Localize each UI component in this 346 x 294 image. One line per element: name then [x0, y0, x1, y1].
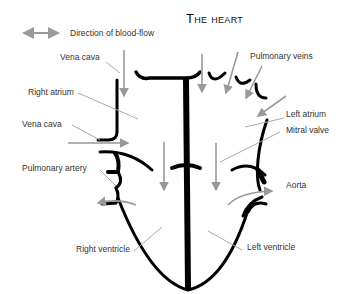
label-mitral-valve: Mitral valve: [286, 126, 329, 135]
diagram-title: The heart: [186, 12, 243, 25]
heart-walls: [98, 72, 267, 290]
label-pulmonary-veins: Pulmonary veins: [250, 52, 313, 61]
label-pulmonary-artery: Pulmonary artery: [22, 164, 87, 173]
flow-arrows: [68, 50, 286, 205]
legend-label: Direction of blood-flow: [70, 29, 154, 38]
label-aorta: Aorta: [286, 181, 306, 190]
label-right-ventricle: Right ventricle: [76, 245, 130, 254]
label-right-atrium: Right atrium: [28, 88, 74, 97]
leader-lines: [72, 62, 284, 251]
label-left-ventricle: Left ventricle: [247, 243, 295, 252]
label-vena-cava-top: Vena cava: [60, 53, 100, 62]
label-vena-cava-left: Vena cava: [22, 120, 62, 129]
label-left-atrium: Left atrium: [286, 110, 326, 119]
